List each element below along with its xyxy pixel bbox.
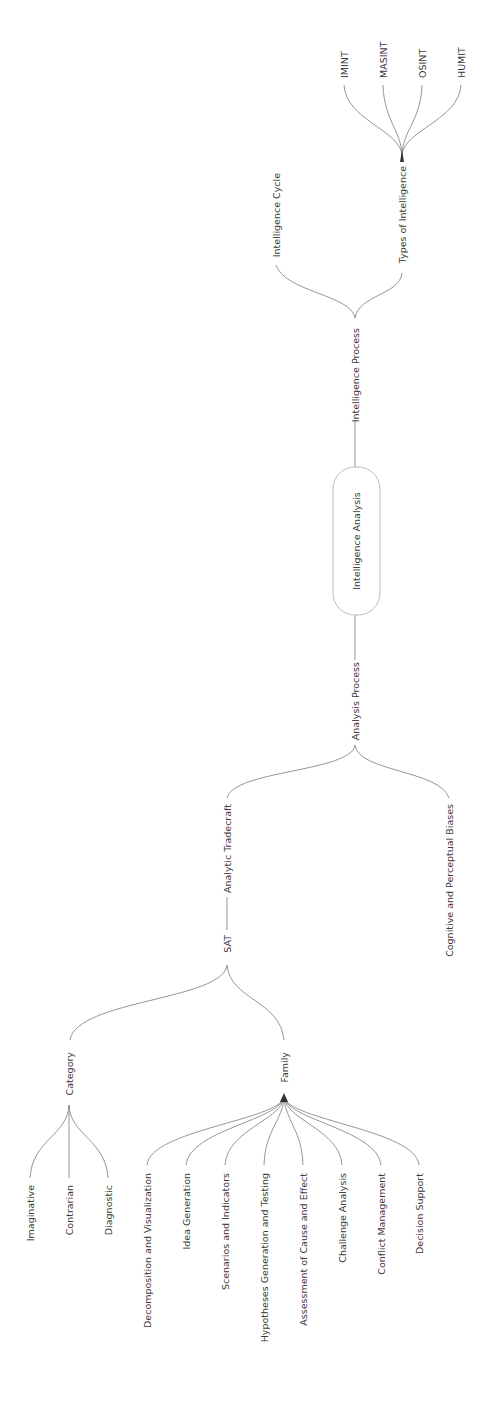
edge-category-imaginative <box>30 1105 69 1178</box>
node-imaginative[interactable]: Imaginative <box>25 1185 36 1241</box>
edge-family-decision <box>284 1097 419 1165</box>
node-intelligence-process[interactable]: Intelligence Process <box>350 328 361 422</box>
hub-marker-types <box>400 150 404 162</box>
node-decomposition-visualization[interactable]: Decomposition and Visualization <box>142 1173 153 1328</box>
node-idea-generation[interactable]: Idea Generation <box>181 1173 192 1250</box>
node-analysis-process[interactable]: Analysis Process <box>350 662 361 740</box>
edge-process-cycle <box>276 265 355 318</box>
node-category[interactable]: Category <box>64 1052 75 1096</box>
edge-process-types <box>355 273 402 318</box>
edge-analysis-tradecraft <box>227 745 355 798</box>
node-imint[interactable]: IMINT <box>339 51 350 78</box>
node-humit[interactable]: HUMIT <box>456 47 467 78</box>
node-analytic-tradecraft[interactable]: Analytic Tradecraft <box>222 804 233 893</box>
edge-types-humit <box>402 85 461 155</box>
node-diagnostic[interactable]: Diagnostic <box>103 1185 114 1235</box>
root-node[interactable]: Intelligence Analysis <box>333 467 380 615</box>
edge-sat-family <box>227 965 284 1040</box>
node-family[interactable]: Family <box>279 1052 290 1083</box>
node-decision-support[interactable]: Decision Support <box>414 1173 425 1254</box>
node-assessment-cause-effect[interactable]: Assessment of Cause and Effect <box>298 1173 309 1326</box>
edge-types-masint <box>383 85 402 155</box>
edge-family-cause <box>284 1097 303 1165</box>
node-labels: Intelligence Process Intelligence Cycle … <box>25 41 467 1342</box>
node-hypotheses-generation-testing[interactable]: Hypotheses Generation and Testing <box>259 1173 270 1342</box>
node-intelligence-cycle[interactable]: Intelligence Cycle <box>271 173 282 257</box>
node-sat[interactable]: SAT <box>222 935 233 953</box>
edge-family-decomposition <box>147 1097 284 1165</box>
mind-map-canvas: Intelligence Analysis Intelligence Proce… <box>0 0 478 1406</box>
edge-family-scenarios <box>225 1097 284 1165</box>
edge-types-osint <box>402 85 422 155</box>
node-scenarios-indicators[interactable]: Scenarios and Indicators <box>220 1173 231 1290</box>
node-conflict-management[interactable]: Conflict Management <box>376 1173 387 1275</box>
edge-analysis-cognitive <box>355 745 449 798</box>
edge-family-challenge <box>284 1097 342 1165</box>
node-masint[interactable]: MASINT <box>378 41 389 78</box>
root-node-label: Intelligence Analysis <box>351 492 362 589</box>
node-cognitive-biases[interactable]: Cognitive and Perceptual Biases <box>444 804 455 957</box>
node-types-of-intelligence[interactable]: Types of Intelligence <box>397 166 408 264</box>
node-contrarian[interactable]: Contrarian <box>64 1185 75 1235</box>
node-challenge-analysis[interactable]: Challenge Analysis <box>337 1173 348 1263</box>
node-osint[interactable]: OSINT <box>417 49 428 78</box>
edge-category-diagnostic <box>69 1105 108 1178</box>
hub-marker-family <box>280 1093 288 1102</box>
edge-sat-category <box>70 965 227 1040</box>
edge-types-imint <box>344 85 402 155</box>
